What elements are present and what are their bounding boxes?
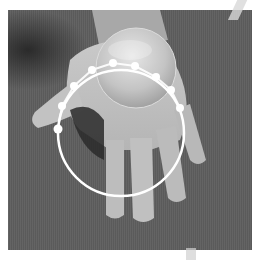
overlay-dot <box>70 82 78 90</box>
overlay-dot <box>109 59 117 67</box>
overlay-dot <box>131 62 139 70</box>
overlay-dot <box>167 86 175 94</box>
overlay-dot <box>152 73 160 81</box>
overlay-dot <box>58 102 66 110</box>
overlay-dot <box>176 104 184 112</box>
finger-ring <box>156 126 186 202</box>
finger-middle <box>130 138 154 222</box>
overlay-dot <box>88 66 96 74</box>
finger-index <box>106 140 124 219</box>
overlay-dot <box>54 125 63 134</box>
